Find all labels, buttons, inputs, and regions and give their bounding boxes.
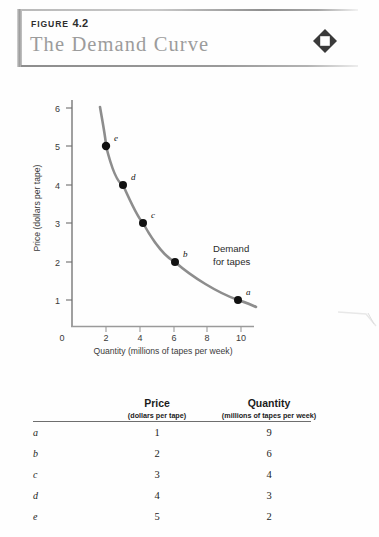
table-cell-quantity: 3 (205, 485, 333, 506)
y-axis-ticks (66, 108, 72, 300)
x-tick-label-10: 10 (236, 333, 246, 343)
table-cell-key: a (33, 422, 109, 443)
figure-header: FIGURE 4.2 The Demand Curve (17, 9, 358, 67)
table-header-quantity-main: Quantity (205, 397, 333, 410)
y-tick-label-3: 3 (55, 219, 60, 229)
table-row: e 5 2 (33, 506, 333, 527)
table-row: c 3 4 (33, 464, 333, 485)
table-header-key (33, 397, 109, 421)
x-tick-label-2: 2 (103, 333, 108, 343)
table-cell-quantity: 2 (205, 506, 333, 527)
data-point-label-d: d (131, 172, 136, 182)
data-point-label-a: a (246, 287, 251, 297)
table-header-price: Price (dollars per tape) (109, 397, 205, 421)
header-bottom-rule (21, 65, 358, 67)
diamond-emblem-icon (312, 28, 338, 54)
table-header-price-sub: (dollars per tape) (109, 410, 205, 421)
header-left-accent-bar (17, 9, 22, 67)
page-title: The Demand Curve (30, 33, 209, 56)
x-tick-label-8: 8 (204, 333, 209, 343)
x-axis-title: Quantity (millions of tapes per week) (94, 346, 233, 356)
table-header-quantity-sub: (millions of tapes per week) (205, 410, 333, 421)
y-axis-title: Price (dollars per tape) (32, 164, 42, 251)
table-cell-price: 3 (109, 464, 205, 485)
table-cell-quantity: 6 (205, 443, 333, 464)
y-tick-label-2: 2 (55, 258, 60, 268)
table-cell-quantity: 9 (205, 422, 333, 443)
table-header-row: Price (dollars per tape) Quantity (milli… (33, 397, 333, 421)
y-tick-label-6: 6 (55, 104, 60, 114)
table-cell-key: d (33, 485, 109, 506)
data-point-c (139, 219, 147, 227)
data-point-label-b: b (183, 249, 188, 259)
data-point-label-e: e (114, 133, 118, 143)
table-header-quantity: Quantity (millions of tapes per week) (205, 397, 333, 421)
figure-page: FIGURE 4.2 The Demand Curve (0, 0, 379, 537)
demand-schedule-table: Price (dollars per tape) Quantity (milli… (33, 397, 333, 527)
table-cell-key: e (33, 506, 109, 527)
table-cell-price: 4 (109, 485, 205, 506)
x-tick-label-6: 6 (171, 333, 176, 343)
table-cell-quantity: 4 (205, 464, 333, 485)
demand-annotation-line1: Demand (213, 243, 249, 254)
demand-curve-line (100, 107, 256, 307)
data-point-a (234, 296, 242, 304)
table-row: b 2 6 (33, 443, 333, 464)
demand-annotation-line2: for tapes (213, 256, 251, 267)
table-cell-key: c (33, 464, 109, 485)
data-point-d (119, 181, 127, 189)
figure-eyebrow-word: FIGURE (31, 19, 69, 29)
table-cell-key: b (33, 443, 109, 464)
table-cell-price: 5 (109, 506, 205, 527)
header-top-rule (21, 9, 358, 11)
data-points (102, 142, 242, 304)
data-point-label-c: c (151, 210, 155, 220)
data-point-b (171, 258, 179, 266)
table-row: d 4 3 (33, 485, 333, 506)
x-tick-label-4: 4 (137, 333, 142, 343)
x-tick-label-0: 0 (59, 333, 64, 343)
table-cell-price: 2 (109, 443, 205, 464)
figure-eyebrow: FIGURE 4.2 (31, 17, 88, 29)
demand-curve-chart: 6 5 4 3 2 1 0 2 4 6 8 10 Price (dollars … (0, 78, 379, 383)
y-tick-label-4: 4 (55, 181, 60, 191)
figure-eyebrow-number: 4.2 (72, 17, 88, 29)
table-header-price-main: Price (109, 397, 205, 410)
y-tick-label-1: 1 (55, 296, 60, 306)
y-tick-label-5: 5 (55, 142, 60, 152)
data-point-e (102, 142, 110, 150)
table-row: a 1 9 (33, 422, 333, 443)
table-cell-price: 1 (109, 422, 205, 443)
